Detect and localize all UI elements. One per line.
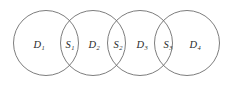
venn-diagram-figure: D1 S1 D2 S2 D3 S3 D4	[0, 0, 238, 88]
region-label-subscript: 1	[41, 44, 44, 51]
region-label-subscript: 4	[197, 44, 200, 51]
region-label-d3: D3	[136, 40, 147, 51]
region-label-s3: S3	[164, 40, 173, 51]
region-label-base: S	[164, 39, 169, 50]
region-label-subscript: 3	[144, 44, 147, 51]
region-label-base: S	[66, 39, 71, 50]
region-label-base: S	[114, 39, 119, 50]
region-label-s2: S2	[114, 40, 123, 51]
region-label-base: D	[136, 39, 144, 50]
region-label-d4: D4	[189, 40, 200, 51]
region-label-d2: D2	[88, 40, 99, 51]
region-label-subscript: 3	[169, 44, 172, 51]
region-label-base: D	[189, 39, 197, 50]
region-label-subscript: 2	[96, 44, 99, 51]
region-label-base: D	[88, 39, 96, 50]
region-label-s1: S1	[66, 40, 75, 51]
region-label-d1: D1	[33, 40, 44, 51]
region-label-base: D	[33, 39, 41, 50]
region-label-subscript: 2	[119, 44, 122, 51]
region-label-subscript: 1	[71, 44, 74, 51]
